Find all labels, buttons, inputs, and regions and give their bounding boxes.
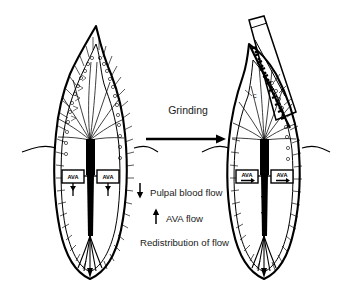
left-pulp-chamber <box>86 139 95 175</box>
right-ava-label-mesial: AVA <box>242 172 253 178</box>
left-ava-shunt-mesial: AVA <box>62 170 84 183</box>
left-root-canal <box>87 175 94 236</box>
right-ava-shunt-mesial: AVA <box>236 170 258 183</box>
legend-label-ava-flow: AVA flow <box>166 213 203 224</box>
right-nerve-label: C <box>253 93 257 99</box>
legend-label-pulpal-blood-flow: Pulpal blood flow <box>150 187 223 198</box>
tooth-blood-flow-diagram: AVA AVA <box>0 0 340 287</box>
legend-summary: Redistribution of flow <box>140 237 229 248</box>
right-ava-label-distal: AVA <box>277 172 288 178</box>
grinding-label: Grinding <box>168 104 208 116</box>
left-ava-shunt-distal: AVA <box>97 170 119 183</box>
right-pulp-chamber <box>260 139 269 175</box>
right-ava-shunt-distal: AVA <box>271 170 293 183</box>
left-ava-label-mesial: AVA <box>68 174 79 180</box>
left-ava-label-distal: AVA <box>103 174 114 180</box>
right-root-canal <box>261 175 268 236</box>
